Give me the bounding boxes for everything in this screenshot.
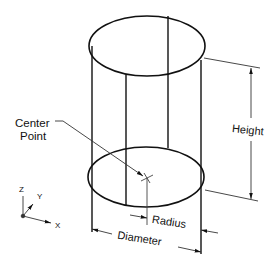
height-label: Height xyxy=(231,122,264,137)
axis-origin xyxy=(21,214,25,218)
top-ellipse xyxy=(89,16,205,76)
x-axis-label: X xyxy=(55,221,61,230)
radius-label: Radius xyxy=(151,213,187,230)
center-point-label: Center xyxy=(15,117,50,129)
center-point-label-2: Point xyxy=(20,130,47,142)
height-extension-top xyxy=(204,58,260,68)
y-axis-label: Y xyxy=(37,192,43,201)
y-axis xyxy=(23,204,33,216)
height-extension-bottom xyxy=(205,190,258,201)
diameter-label: Diameter xyxy=(117,229,163,248)
diameter-arrow-right xyxy=(178,247,201,252)
cylinder-diagram: Center Point Height Radius Diameter Z Y … xyxy=(0,0,280,267)
diameter-arrow-left xyxy=(92,229,112,234)
radius-arrow-left xyxy=(130,215,147,218)
x-axis xyxy=(23,216,51,223)
radius-arrow-right xyxy=(201,230,218,233)
z-axis-label: Z xyxy=(19,185,24,194)
